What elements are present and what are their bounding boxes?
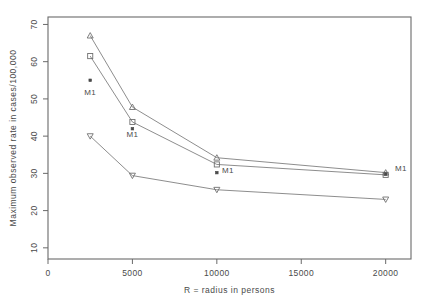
annotation-label: M1 bbox=[395, 164, 407, 173]
annotations: M1M1M1M1 bbox=[84, 88, 407, 174]
marker-triangle-up-icon bbox=[87, 33, 93, 38]
y-tick-label: 10 bbox=[29, 243, 39, 253]
series-line bbox=[90, 36, 385, 173]
plot-frame bbox=[48, 17, 411, 259]
series-triangle-down bbox=[87, 134, 388, 203]
marker-dot-icon bbox=[384, 173, 387, 176]
marker-dot-icon bbox=[89, 79, 92, 82]
annotation-label: M1 bbox=[84, 88, 96, 97]
chart-figure: 0500010000150002000010203040506070R = ra… bbox=[0, 0, 426, 304]
y-tick-label: 30 bbox=[29, 168, 39, 178]
marker-dot-icon bbox=[216, 171, 219, 174]
y-tick-label: 20 bbox=[29, 205, 39, 215]
series-line bbox=[90, 56, 385, 175]
annotation-label: M1 bbox=[127, 130, 139, 139]
x-axis-label: R = radius in persons bbox=[184, 285, 275, 295]
x-tick-label: 5000 bbox=[122, 268, 143, 278]
annotation-label: M1 bbox=[222, 166, 234, 175]
y-tick-label: 50 bbox=[29, 94, 39, 104]
y-tick-label: 40 bbox=[29, 131, 39, 141]
series-M1 bbox=[89, 79, 387, 175]
y-tick-label: 60 bbox=[29, 57, 39, 67]
series-line bbox=[90, 136, 385, 199]
x-tick-label: 15000 bbox=[288, 268, 314, 278]
x-tick-label: 10000 bbox=[204, 268, 230, 278]
y-tick-label: 70 bbox=[29, 19, 39, 29]
series-square bbox=[88, 54, 389, 178]
y-axis-label: Maximum observed rate in cases/100,000 bbox=[8, 50, 18, 227]
series-triangle-up bbox=[87, 33, 388, 175]
x-tick-label: 0 bbox=[45, 268, 50, 278]
chart-canvas: 0500010000150002000010203040506070R = ra… bbox=[0, 0, 426, 304]
x-tick-label: 20000 bbox=[373, 268, 399, 278]
